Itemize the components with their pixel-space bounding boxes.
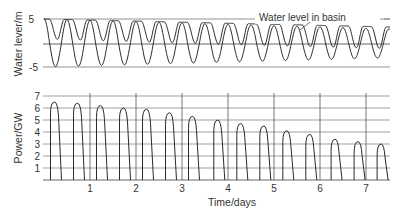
ytick-2: 2 <box>34 151 40 162</box>
y-axis-title-power: Power/GW <box>12 113 24 164</box>
ytick-7: 7 <box>34 91 40 102</box>
power-pulse <box>214 120 225 180</box>
xtick-4: 4 <box>225 183 231 194</box>
power-chart: 7 6 5 4 3 2 1 1 2 3 4 5 6 7 Time/days Po… <box>12 91 390 208</box>
xtick-7: 7 <box>363 183 369 194</box>
water-level-chart: 5 -5 Water lever/m Water level in basin <box>12 10 390 76</box>
power-pulse <box>166 113 177 180</box>
ytick-minus5: -5 <box>29 62 38 73</box>
ytick-5: 5 <box>34 115 40 126</box>
power-pulse <box>306 134 317 180</box>
ytick-4: 4 <box>34 127 40 138</box>
tidal-power-figure: 5 -5 Water lever/m Water level in basin … <box>0 0 403 214</box>
x-axis-title: Time/days <box>208 196 256 208</box>
xtick-1: 1 <box>87 183 93 194</box>
annotation-basin: Water level in basin <box>259 12 346 23</box>
ytick-1: 1 <box>34 163 40 174</box>
day-gridlines <box>90 93 366 180</box>
power-pulse <box>97 106 108 180</box>
ytick-5: 5 <box>28 14 34 25</box>
xtick-2: 2 <box>133 183 139 194</box>
power-pulse <box>74 103 85 180</box>
ytick-6: 6 <box>34 103 40 114</box>
xtick-5: 5 <box>271 183 277 194</box>
y-axis-title-water: Water lever/m <box>12 11 24 76</box>
xtick-3: 3 <box>179 183 185 194</box>
power-xticks: 1 2 3 4 5 6 7 <box>87 183 369 194</box>
power-pulse <box>260 126 271 180</box>
power-pulse <box>354 142 365 180</box>
power-yticks: 7 6 5 4 3 2 1 <box>34 91 40 174</box>
power-pulse <box>283 131 294 180</box>
power-pulse <box>377 144 388 180</box>
xtick-6: 6 <box>317 183 323 194</box>
ytick-3: 3 <box>34 139 40 150</box>
power-gridlines <box>43 96 390 168</box>
power-pulse <box>189 116 200 180</box>
power-pulse <box>331 139 342 180</box>
